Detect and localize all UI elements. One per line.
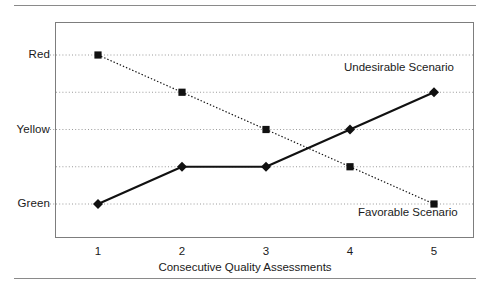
data-point-square	[262, 126, 269, 133]
data-point-diamond	[261, 162, 271, 172]
x-axis-tick-2: 2	[167, 245, 197, 257]
series-group	[93, 51, 439, 209]
y-axis-label-yellow: Yellow	[4, 123, 50, 135]
data-point-diamond	[429, 87, 439, 97]
x-axis-tick-5: 5	[419, 245, 449, 257]
gridlines-group	[50, 55, 473, 204]
y-axis-label-red: Red	[4, 48, 50, 60]
x-axis-tick-3: 3	[251, 245, 281, 257]
data-point-square	[346, 163, 353, 170]
data-point-diamond	[177, 162, 187, 172]
figure-container: Red Yellow Green 1 2 3 4 5 Consecutive Q…	[0, 0, 490, 289]
series-line-2	[98, 92, 434, 204]
data-point-square	[178, 89, 185, 96]
x-axis-title: Consecutive Quality Assessments	[0, 261, 490, 273]
data-point-square	[94, 51, 101, 58]
y-axis-label-green: Green	[4, 197, 50, 209]
x-axis-tick-1: 1	[83, 245, 113, 257]
chart-canvas	[0, 0, 490, 289]
series-label-undesirable: Undesirable Scenario	[344, 61, 454, 73]
x-axis-tick-4: 4	[335, 245, 365, 257]
data-point-diamond	[93, 199, 103, 209]
series-label-favorable: Favorable Scenario	[358, 206, 458, 218]
data-point-diamond	[345, 125, 355, 135]
